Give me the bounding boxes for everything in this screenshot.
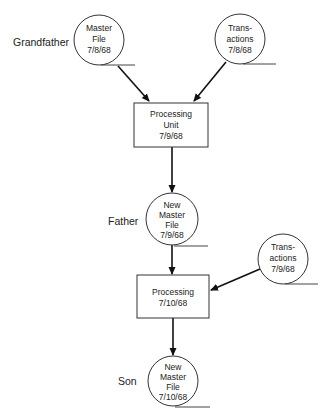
generation-label-father: Father — [108, 215, 139, 227]
node-text-line: actions — [227, 34, 254, 44]
node-text-line: New — [163, 200, 181, 210]
file-node-transactions-7-9-68: Trans- actions 7/9/68 — [258, 234, 318, 284]
generation-label-son: Son — [118, 375, 137, 387]
node-text-line: File — [92, 34, 106, 44]
node-text-line: 7/9/68 — [271, 264, 295, 274]
process-node-processing-unit-7-9-68: Processing Unit 7/9/68 — [134, 103, 208, 147]
node-text-line: 7/8/68 — [228, 45, 252, 55]
node-text-line: 7/9/68 — [159, 131, 183, 141]
node-text-line: Trans- — [228, 23, 252, 33]
node-text-line: 7/10/68 — [159, 392, 188, 402]
node-text-line: File — [166, 382, 180, 392]
file-node-transactions-7-8-68: Trans- actions 7/8/68 — [215, 14, 276, 64]
file-node-new-master-file-7-10-68: New Master File 7/10/68 — [148, 356, 210, 407]
node-text-line: Master — [86, 23, 112, 33]
file-node-new-master-file-7-9-68: New Master File 7/9/68 — [146, 193, 208, 246]
arrow-transactions-to-processing — [211, 269, 260, 290]
node-text-line: New — [164, 362, 182, 372]
node-text-line: Processing — [152, 287, 194, 297]
grandfather-father-son-diagram: Grandfather Father Son Master File 7/8/6… — [0, 0, 329, 420]
arrow-master-file-to-processing-unit — [118, 66, 149, 101]
node-text-line: Unit — [163, 120, 179, 130]
node-text-line: 7/8/68 — [87, 45, 111, 55]
node-text-line: File — [165, 220, 179, 230]
node-text-line: actions — [270, 253, 297, 263]
generation-label-grandfather: Grandfather — [13, 36, 70, 48]
node-text-line: Master — [160, 372, 186, 382]
process-node-processing-7-10-68: Processing 7/10/68 — [137, 275, 209, 318]
node-text-line: Trans- — [271, 242, 295, 252]
node-text-line: 7/9/68 — [160, 230, 184, 240]
node-text-line: Master — [159, 210, 185, 220]
node-text-line: 7/10/68 — [159, 298, 188, 308]
node-text-line: Processing — [150, 109, 192, 119]
file-node-master-file-7-8-68: Master File 7/8/68 — [74, 15, 135, 65]
arrow-transactions-to-processing-unit — [194, 62, 226, 101]
